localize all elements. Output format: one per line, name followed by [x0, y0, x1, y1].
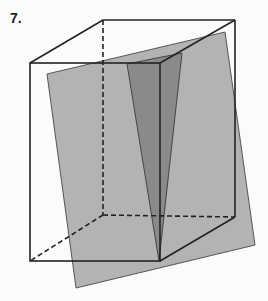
cube-plane-figure	[0, 0, 268, 301]
